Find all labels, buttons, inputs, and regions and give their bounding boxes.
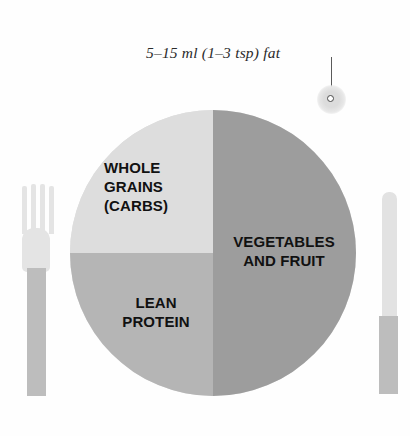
label-whole-grains-line2: GRAINS [104,177,214,196]
label-lean-protein-line1: LEAN [98,293,214,312]
fork-tine [31,184,36,234]
label-lean-protein-line2: PROTEIN [98,312,214,331]
fork-tine [22,186,27,234]
fork-handle [27,268,46,396]
fork-tine [40,184,45,234]
fat-caption-label: 5–15 ml (1–3 tsp) fat [146,44,280,62]
knife-blade [382,192,397,324]
knife-handle [379,316,398,394]
fork-neck [22,228,50,272]
healthy-plate-figure: 5–15 ml (1–3 tsp) fat WHOLE GRAINS (CARB… [0,0,410,436]
label-vegetables-line1: VEGETABLES [219,232,349,251]
fork-tine [49,186,54,234]
label-lean-protein: LEAN PROTEIN [98,293,214,331]
label-vegetables-line2: AND FRUIT [219,251,349,270]
label-vegetables-and-fruit: VEGETABLES AND FRUIT [219,232,349,270]
label-whole-grains: WHOLE GRAINS (CARBS) [104,158,214,216]
fat-portion-dot-icon [327,95,334,102]
label-whole-grains-line1: WHOLE [104,158,214,177]
label-whole-grains-line3: (CARBS) [104,196,214,215]
